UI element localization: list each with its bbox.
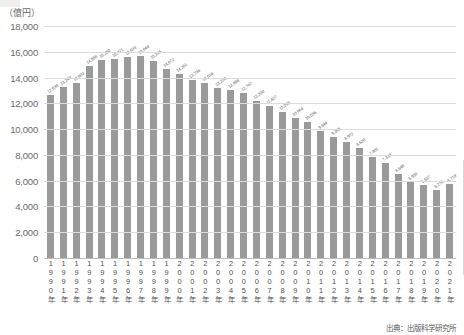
bar[interactable] [240,93,247,258]
x-axis-tick-label: 2015年 [369,259,377,321]
gridline [44,181,456,182]
x-axis-tick: 2018年 [405,259,418,321]
plot-area: 12,63813,24013,60314,88815,35015,42115,6… [44,26,456,258]
x-axis-tick: 2016年 [379,259,392,321]
x-axis-tick: 2012年 [327,259,340,321]
bar[interactable] [137,56,144,258]
bar[interactable] [176,74,183,258]
bar-slot: 12,767 [237,26,250,258]
bar[interactable] [98,60,105,258]
gridline [44,78,456,79]
x-axis-tick: 2017年 [392,259,405,321]
bar-slot: 8,520 [353,26,366,258]
y-axis: 18,00016,00014,00012,00010,0008,0006,000… [0,26,42,258]
x-axis-tick-label: 1999年 [163,259,171,321]
bar[interactable] [356,148,363,258]
y-axis-tick-label: 6,000 [15,175,38,186]
gridline [44,129,456,130]
gridline [44,155,456,156]
bar[interactable] [253,101,260,258]
x-axis-tick: 2021年 [443,259,456,321]
x-axis-tick: 2003年 [211,259,224,321]
x-axis-tick-label: 2003年 [214,259,222,321]
bar[interactable] [407,182,414,258]
gridline [44,26,456,27]
x-axis-tick: 2005年 [237,259,250,321]
x-axis-tick-label: 2007年 [266,259,274,321]
x-axis-tick: 2009年 [289,259,302,321]
bar[interactable] [382,163,389,258]
bar[interactable] [446,184,453,258]
bar-value-label: 5,719 [446,174,457,184]
bar[interactable] [111,59,118,258]
x-axis-tick: 1994年 [96,259,109,321]
bar[interactable] [433,190,440,258]
bar-slot: 15,315 [147,26,160,258]
bar[interactable] [317,131,324,258]
bar[interactable] [47,95,54,258]
x-axis-tick-label: 2000年 [175,259,183,321]
source-note: 出典：出版科学研究所 [386,322,456,333]
bar-slot: 13,794 [186,26,199,258]
y-axis-tick-label: 14,000 [10,72,38,83]
bar-slot: 8,972 [340,26,353,258]
x-axis-tick-label: 2006年 [253,259,261,321]
bar-slot: 10,536 [302,26,315,258]
x-axis-tick-label: 1991年 [60,259,68,321]
x-axis-tick-label: 1994年 [98,259,106,321]
bar[interactable] [343,142,350,258]
bar-slot: 5,276 [430,26,443,258]
bar[interactable] [150,61,157,258]
x-axis-tick: 2015年 [366,259,379,321]
bar-slot: 13,616 [199,26,212,258]
x-axis-tick: 1993年 [83,259,96,321]
y-axis-tick-label: 4,000 [15,201,38,212]
x-axis-tick-label: 2011年 [317,259,325,321]
y-axis-tick-label: 18,000 [10,21,38,32]
x-axis-tick-label: 2008年 [278,259,286,321]
x-axis-tick-label: 2018年 [407,259,415,321]
x-axis-tick-label: 1995年 [111,259,119,321]
x-axis-tick: 2011年 [314,259,327,321]
bar-slot: 13,603 [70,26,83,258]
bar-slot: 15,633 [121,26,134,258]
x-axis-tick-label: 1990年 [47,259,55,321]
x-axis-tick: 1999年 [160,259,173,321]
bar[interactable] [304,122,311,258]
x-axis-tick: 1996年 [121,259,134,321]
x-axis: 1990年1991年1992年1993年1994年1995年1996年1997年… [44,259,456,321]
bar[interactable] [369,157,376,258]
x-axis-tick: 1995年 [108,259,121,321]
bar-slot: 14,261 [173,26,186,258]
x-axis-tick-label: 2005年 [240,259,248,321]
x-axis-tick: 2006年 [250,259,263,321]
bar[interactable] [124,57,131,258]
x-axis-tick-label: 2017年 [394,259,402,321]
bar-slot: 9,385 [327,26,340,258]
x-axis-tick: 1990年 [44,259,57,321]
bar[interactable] [292,118,299,258]
x-axis-tick-label: 2013年 [343,259,351,321]
y-axis-tick-label: 12,000 [10,98,38,109]
x-axis-tick-label: 1998年 [150,259,158,321]
x-axis-tick-label: 2019年 [420,259,428,321]
y-axis-tick-label: 0 [33,253,38,264]
bar[interactable] [395,174,402,258]
x-axis-tick: 2019年 [417,259,430,321]
y-axis-tick-label: 2,000 [15,227,38,238]
x-axis-tick-label: 1996年 [124,259,132,321]
x-axis-tick: 1992年 [70,259,83,321]
gridline [44,52,456,53]
y-axis-tick-label: 8,000 [15,149,38,160]
x-axis-tick-label: 2012年 [330,259,338,321]
bar-slot: 12,638 [44,26,57,258]
bar-slot: 13,240 [57,26,70,258]
x-axis-tick: 2001年 [186,259,199,321]
bar[interactable] [420,185,427,258]
x-axis-tick: 2007年 [263,259,276,321]
gridline [44,103,456,104]
bar[interactable] [86,66,93,258]
bar[interactable] [163,69,170,258]
bar[interactable] [279,112,286,258]
x-axis-tick: 1998年 [147,259,160,321]
